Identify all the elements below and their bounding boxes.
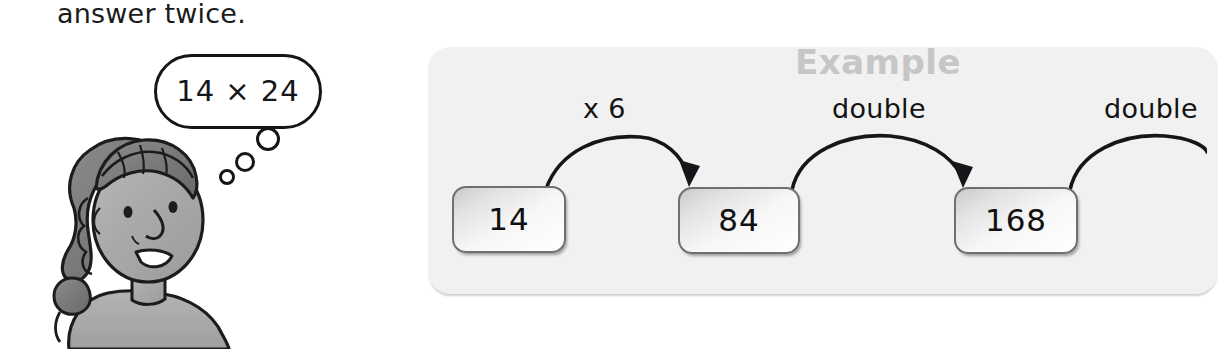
example-panel-label: Example xyxy=(795,44,961,80)
instruction-text: answer twice. xyxy=(57,0,246,29)
number-box-168: 168 xyxy=(954,187,1078,254)
number-box-84: 84 xyxy=(678,187,800,254)
number-box-value: 84 xyxy=(680,202,798,238)
student-illustration xyxy=(36,112,262,349)
number-box-value: 168 xyxy=(956,202,1076,238)
arrow-label-double-second: double xyxy=(1104,94,1198,124)
arrow-label-times-six: x 6 xyxy=(583,94,626,124)
number-box-value: 14 xyxy=(454,201,564,237)
number-box-14: 14 xyxy=(452,186,566,253)
arrow-label-double-first: double xyxy=(832,94,926,124)
thought-bubble-expression: 14 × 24 xyxy=(157,74,319,108)
example-panel xyxy=(428,47,1218,294)
